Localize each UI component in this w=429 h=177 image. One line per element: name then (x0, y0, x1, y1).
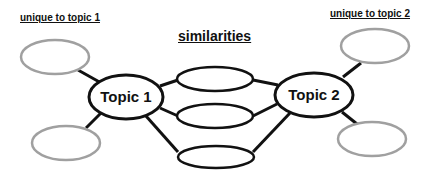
unique-topic1-bubble-2[interactable] (32, 126, 100, 160)
similarity-bubble-3[interactable] (178, 146, 254, 168)
unique-topic2-bubble-2[interactable] (338, 122, 406, 156)
heading-similarities: similarities (178, 28, 251, 44)
heading-unique-topic2: unique to topic 2 (330, 8, 410, 19)
unique-topic2-bubble-1[interactable] (341, 29, 409, 63)
connector-topic2-unique-top (343, 63, 361, 77)
topic2-label: Topic 2 (288, 86, 339, 103)
connector-topic1-sim-bottom (146, 116, 178, 152)
connector-topic1-sim-middle (160, 108, 178, 116)
unique-topic1-bubble-1[interactable] (21, 40, 89, 74)
connector-topic1-sim-top (160, 80, 178, 86)
heading-unique-topic1: unique to topic 1 (20, 12, 100, 23)
connector-topic2-sim-bottom (253, 113, 290, 152)
similarity-bubble-1[interactable] (177, 67, 253, 91)
topic1-label: Topic 1 (100, 88, 151, 105)
similarity-bubble-2[interactable] (177, 104, 253, 128)
connector-topic2-sim-top (253, 80, 278, 85)
connector-topic2-sim-middle (253, 104, 277, 116)
double-bubble-map: Topic 1 Topic 2 (0, 0, 429, 177)
connector-topic2-unique-bottom (342, 112, 357, 124)
